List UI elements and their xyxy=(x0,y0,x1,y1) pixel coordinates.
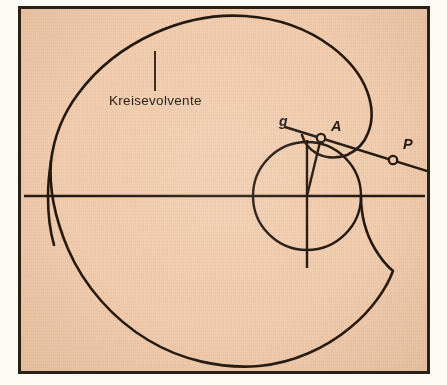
point-marker-a xyxy=(317,134,325,142)
point-a-label: A xyxy=(330,118,341,134)
involute-curve-group xyxy=(48,16,393,367)
kreisevolvente-diagram: Kreisevolvente g A P xyxy=(21,9,427,371)
figure-root: Kreisevolvente g A P xyxy=(0,0,447,385)
labels-group: Kreisevolvente g A P xyxy=(109,93,413,152)
point-marker-p xyxy=(389,156,397,164)
axes-group xyxy=(24,140,425,268)
line-g-label: g xyxy=(278,113,288,129)
figure-frame: Kreisevolvente g A P xyxy=(18,6,430,374)
point-p-label: P xyxy=(403,136,413,152)
involute-curve xyxy=(51,16,393,367)
curve-name-label: Kreisevolvente xyxy=(109,93,202,108)
